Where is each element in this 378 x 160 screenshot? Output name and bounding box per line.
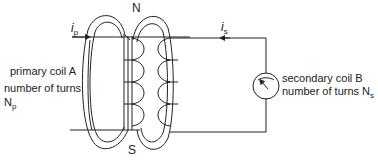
secondary-circuit-wire: [170, 38, 266, 73]
south-pole-label: S: [128, 144, 136, 157]
secondary-coil: [158, 38, 178, 126]
secondary-coil-name: secondary coil B: [282, 72, 363, 85]
primary-coil-name: primary coil A: [10, 65, 76, 78]
north-pole-label: N: [132, 2, 141, 15]
secondary-current-label: is: [221, 21, 228, 38]
flux-lines-primary: [82, 16, 128, 149]
primary-current-label: ip: [71, 22, 78, 39]
secondary-turns-label: number of turns Ns: [282, 85, 374, 102]
primary-turns-symbol: Np: [4, 96, 16, 113]
primary-coil: [124, 34, 144, 130]
galvanometer-icon: [253, 73, 279, 99]
primary-turns-label: number of turns: [4, 82, 81, 95]
